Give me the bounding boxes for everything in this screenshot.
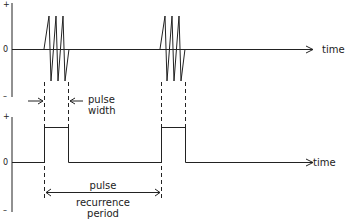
burst-1	[44, 16, 69, 81]
prp-label-line3: period	[72, 209, 134, 219]
pulse-width-label-line2: width	[88, 106, 116, 116]
top-y-zero-label: 0	[3, 45, 8, 55]
prp-label: pulse	[72, 182, 134, 192]
top-time-label: time	[322, 45, 345, 55]
burst-2	[160, 16, 185, 81]
pulse-train	[12, 128, 313, 163]
top-y-minus-label: –	[3, 92, 7, 102]
bottom-y-zero-label: 0	[3, 158, 8, 168]
pulse-width-label-line1: pulse	[88, 95, 115, 105]
bottom-y-minus-label: –	[3, 206, 7, 216]
top-y-plus-label: +	[3, 0, 10, 10]
bottom-y-plus-label: +	[3, 112, 10, 122]
prp-label-line1: pulse	[72, 181, 134, 191]
bottom-time-label: time	[313, 158, 336, 168]
prp-label-line2: recurrence	[72, 198, 134, 208]
